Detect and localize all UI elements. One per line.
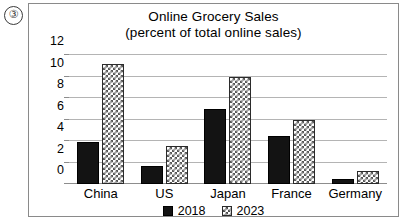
y-axis-tick-label: 2 <box>57 142 64 156</box>
legend-item-2023: 2023 <box>222 204 265 218</box>
y-axis-tick-label: 0 <box>57 163 64 177</box>
x-axis-label-germany: Germany <box>323 186 387 201</box>
y-axis-tick-label: 6 <box>57 99 64 113</box>
bar-group-us <box>133 55 197 184</box>
legend-item-2018: 2018 <box>163 204 206 218</box>
x-axis-label-china: China <box>69 186 133 201</box>
x-axis-labels: ChinaUSJapanFranceGermany <box>69 186 387 201</box>
bar-group-france <box>260 55 324 184</box>
checkered-square-icon <box>222 206 232 216</box>
bar-china-2023 <box>102 64 124 184</box>
x-axis-label-us: US <box>133 186 197 201</box>
y-axis-tick-label: 12 <box>50 34 64 48</box>
plot-area: 024681012 <box>69 55 387 184</box>
bar-group-germany <box>323 55 387 184</box>
bar-us-2023 <box>166 146 188 184</box>
bar-us-2018 <box>141 166 163 184</box>
bar-layer <box>69 55 387 184</box>
x-axis-label-france: France <box>260 186 324 201</box>
legend-label: 2023 <box>237 204 265 218</box>
chart-title: Online Grocery Sales <box>29 9 398 25</box>
bar-group-china <box>69 55 133 184</box>
solid-square-icon <box>163 206 173 216</box>
bar-japan-2023 <box>229 77 251 185</box>
chart-subtitle: (percent of total online sales) <box>29 25 398 41</box>
bar-france-2018 <box>268 136 290 184</box>
x-axis-label-japan: Japan <box>196 186 260 201</box>
bar-germany-2023 <box>357 171 379 184</box>
bar-germany-2018 <box>332 179 354 184</box>
y-axis-tick-label: 10 <box>50 56 64 70</box>
bar-france-2023 <box>293 120 315 185</box>
bar-japan-2018 <box>204 109 226 184</box>
y-axis-tick-label: 4 <box>57 120 64 134</box>
bar-group-japan <box>196 55 260 184</box>
chart-title-block: Online Grocery Sales (percent of total o… <box>29 9 398 41</box>
legend-label: 2018 <box>178 204 206 218</box>
chart-container: Online Grocery Sales (percent of total o… <box>28 3 399 217</box>
question-number-marker: ③ <box>4 6 23 25</box>
chart-legend: 20182023 <box>29 204 398 218</box>
y-axis-tick-label: 8 <box>57 77 64 91</box>
bar-china-2018 <box>77 142 99 184</box>
